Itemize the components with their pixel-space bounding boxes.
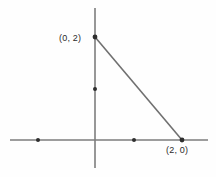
point-marker-2-0 — [180, 138, 185, 143]
point-marker-x-negative — [36, 138, 40, 142]
line-segment — [95, 37, 182, 140]
point-marker-0-2 — [93, 35, 98, 40]
point-label-2-0: (2, 0) — [166, 145, 188, 155]
coordinate-plane-figure: (0, 2) (2, 0) — [0, 0, 216, 177]
point-marker-y-unit — [93, 87, 97, 91]
point-marker-x-unit — [132, 138, 136, 142]
point-label-0-2: (0, 2) — [59, 33, 81, 43]
